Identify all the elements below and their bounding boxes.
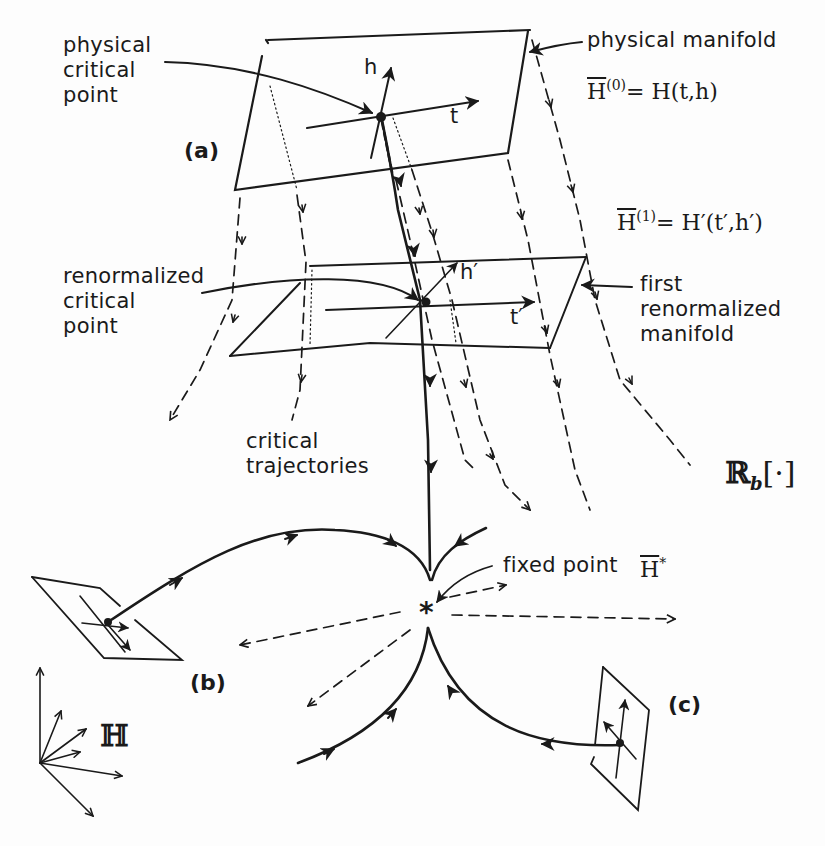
rg-operator-symbol: ℝ <box>725 455 750 490</box>
h0-definition: = H(t,h) <box>626 79 718 104</box>
fixed-point-superscript: * <box>659 555 666 571</box>
critical-trajectory-from-b <box>108 530 430 622</box>
h0-symbol: H <box>587 79 606 104</box>
critical-trajectory-upper-right <box>432 528 486 580</box>
fixed-point-label: fixed point <box>503 553 618 578</box>
fixed-point-pointer <box>437 566 492 602</box>
axis-t-prime-label: t′ <box>510 305 523 329</box>
space-label: ℍ <box>100 718 128 753</box>
axis-t-label: t <box>450 104 458 128</box>
panel-tag-c: (c) <box>668 692 701 717</box>
renormalized-critical-point-pointer <box>202 279 418 300</box>
rg-operator-subscript: b <box>750 473 763 494</box>
panel-tag-b: (b) <box>190 670 226 695</box>
fixed-point-hamiltonian: H* <box>640 550 666 583</box>
renormalized-hamiltonian: H(1)= H′(t′,h′) <box>617 203 763 236</box>
h0-superscript: (0) <box>606 77 626 93</box>
physical-manifold-label: physical manifold <box>587 28 777 53</box>
physical-manifold-pointer <box>530 42 582 52</box>
rg-flow-diagram: physical critical point physical manifol… <box>0 0 825 846</box>
h1-symbol: H <box>617 210 636 235</box>
rg-operator-label: ℝb[·] <box>725 455 795 494</box>
panel-tag-a: (a) <box>184 138 219 163</box>
renormalized-critical-point-label: renormalized critical point <box>63 264 204 339</box>
critical-trajectories-label: critical trajectories <box>246 429 369 479</box>
physical-critical-point-label: physical critical point <box>63 33 152 108</box>
h1-superscript: (1) <box>636 208 656 224</box>
first-renormalized-manifold-pointer <box>582 285 632 287</box>
plane-c <box>591 667 649 810</box>
axis-h-label: h <box>364 55 377 79</box>
axis-h-prime-label: h′ <box>460 260 478 284</box>
fixed-point-symbol: H <box>640 557 659 582</box>
critical-trajectory-lower-left <box>298 628 428 763</box>
h1-definition: = H′(t′,h′) <box>656 210 763 235</box>
physical-critical-point-pointer <box>165 62 372 113</box>
critical-trajectory-from-c <box>428 628 620 745</box>
physical-manifold-hamiltonian: H(0)= H(t,h) <box>587 72 718 105</box>
first-renormalized-manifold-label: first renormalized manifold <box>640 272 781 347</box>
rg-operator-argument: [·] <box>763 455 796 490</box>
fixed-point-marker: * <box>419 596 434 629</box>
